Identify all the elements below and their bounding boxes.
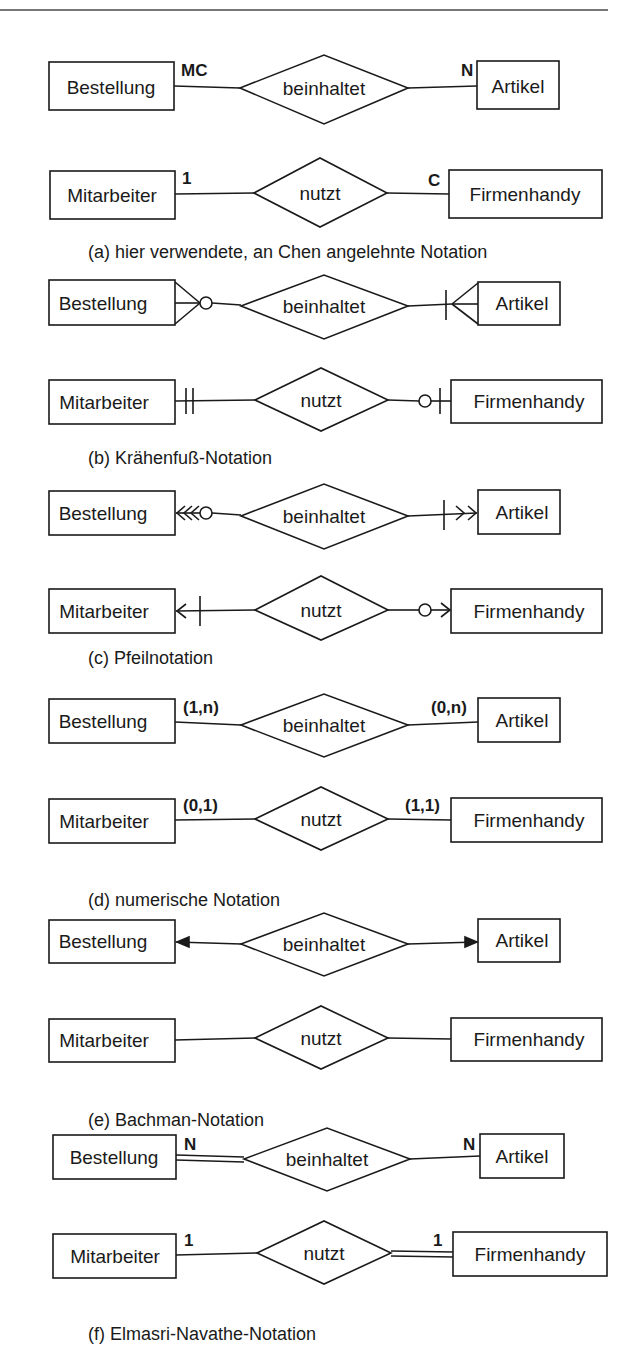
entity-label: Artikel bbox=[496, 502, 549, 523]
relationship-label: nutzt bbox=[300, 390, 342, 411]
relationship-label: beinhaltet bbox=[283, 296, 366, 317]
relationship-label: nutzt bbox=[300, 809, 342, 830]
relationship-label: beinhaltet bbox=[283, 78, 366, 99]
cardinality-label: (0,1) bbox=[183, 796, 218, 815]
caption-f: (f) Elmasri-Navathe-Notation bbox=[88, 1324, 316, 1345]
entity-label: Bestellung bbox=[59, 293, 148, 314]
entity-label: Artikel bbox=[496, 930, 549, 951]
entity-label: Artikel bbox=[496, 1146, 549, 1167]
entity-label: Mitarbeiter bbox=[59, 392, 149, 413]
er-labels: Bestellung beinhaltet Artikel MC N Mitar… bbox=[0, 0, 640, 1370]
cardinality-label: 1 bbox=[184, 1231, 193, 1250]
entity-label: Bestellung bbox=[67, 77, 156, 98]
relationship-label: beinhaltet bbox=[283, 715, 366, 736]
caption-d: (d) numerische Notation bbox=[88, 890, 280, 911]
cardinality-label: 1 bbox=[433, 1231, 442, 1250]
caption-e: (e) Bachman-Notation bbox=[88, 1110, 264, 1131]
relationship-label: beinhaltet bbox=[283, 934, 366, 955]
cardinality-label: N bbox=[463, 1135, 475, 1154]
entity-label: Firmenhandy bbox=[474, 810, 585, 831]
relationship-label: nutzt bbox=[303, 1243, 345, 1264]
caption-b: (b) Krähenfuß-Notation bbox=[88, 448, 272, 469]
entity-label: Mitarbeiter bbox=[59, 811, 149, 832]
cardinality-label: (1,n) bbox=[183, 698, 219, 717]
entity-label: Mitarbeiter bbox=[70, 1246, 160, 1267]
entity-label: Mitarbeiter bbox=[59, 1030, 149, 1051]
entity-label: Mitarbeiter bbox=[67, 185, 157, 206]
cardinality-label: 1 bbox=[182, 169, 191, 188]
entity-label: Artikel bbox=[496, 293, 549, 314]
entity-label: Firmenhandy bbox=[475, 1244, 586, 1265]
entity-label: Firmenhandy bbox=[474, 601, 585, 622]
entity-label: Mitarbeiter bbox=[59, 601, 149, 622]
relationship-label: beinhaltet bbox=[283, 506, 366, 527]
entity-label: Artikel bbox=[496, 710, 549, 731]
entity-label: Firmenhandy bbox=[470, 184, 581, 205]
relationship-label: nutzt bbox=[300, 600, 342, 621]
entity-label: Bestellung bbox=[59, 711, 148, 732]
relationship-label: nutzt bbox=[299, 183, 341, 204]
entity-label: Firmenhandy bbox=[474, 391, 585, 412]
caption-a: (a) hier verwendete, an Chen angelehnte … bbox=[88, 242, 487, 263]
relationship-label: nutzt bbox=[300, 1028, 342, 1049]
entity-label: Bestellung bbox=[59, 503, 148, 524]
entity-label: Bestellung bbox=[59, 931, 148, 952]
cardinality-label: (0,n) bbox=[431, 698, 467, 717]
cardinality-label: N bbox=[184, 1135, 196, 1154]
entity-label: Bestellung bbox=[70, 1147, 159, 1168]
relationship-label: beinhaltet bbox=[286, 1149, 369, 1170]
cardinality-label: C bbox=[428, 171, 440, 190]
cardinality-label: MC bbox=[181, 61, 207, 80]
cardinality-label: N bbox=[461, 61, 473, 80]
caption-c: (c) Pfeilnotation bbox=[88, 648, 213, 669]
cardinality-label: (1,1) bbox=[405, 796, 440, 815]
entity-label: Firmenhandy bbox=[474, 1029, 585, 1050]
entity-label: Artikel bbox=[492, 76, 545, 97]
